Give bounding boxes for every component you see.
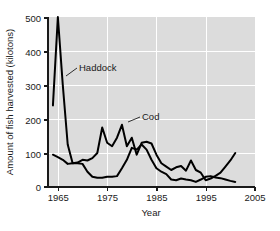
y-tick-label-0: 0 <box>36 182 41 193</box>
x-axis-title: Year <box>141 207 160 218</box>
series-label-haddock: Haddock <box>79 62 117 73</box>
y-tick-label-100: 100 <box>25 149 41 160</box>
x-tick-label-1975: 1975 <box>97 192 118 203</box>
x-tick-label-1985: 1985 <box>146 192 167 203</box>
y-tick-label-200: 200 <box>25 115 41 126</box>
y-tick-label-400: 400 <box>25 47 41 58</box>
x-tick-label-1965: 1965 <box>48 192 69 203</box>
fish-harvest-line-chart: 500 400 300 200 100 0 1965 1975 1985 199… <box>0 0 280 231</box>
x-tick-label-1995: 1995 <box>196 192 217 203</box>
series-label-cod: Cod <box>142 111 159 122</box>
x-tick-label-2005: 2005 <box>244 192 265 203</box>
y-axis-title: Amount of fish harvested (kilotons) <box>4 29 15 175</box>
y-tick-label-300: 300 <box>25 81 41 92</box>
y-tick-label-500: 500 <box>25 13 41 24</box>
chart-svg: 500 400 300 200 100 0 1965 1975 1985 199… <box>0 0 280 231</box>
